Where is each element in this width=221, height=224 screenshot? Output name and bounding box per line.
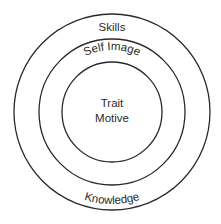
knowledge-label-wrap: Knowledge xyxy=(83,190,140,206)
trait-label: Trait xyxy=(101,97,124,109)
skills-label: Skills xyxy=(99,21,126,33)
iceberg-circle-diagram: Skills Self Image Trait Motive Knowledge xyxy=(0,0,221,224)
knowledge-label: Knowledge xyxy=(83,190,140,206)
motive-label: Motive xyxy=(95,112,129,124)
